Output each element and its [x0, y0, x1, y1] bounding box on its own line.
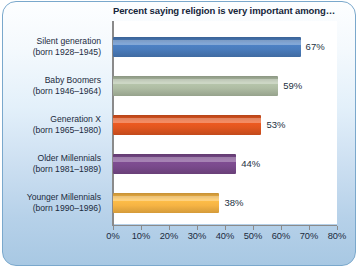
category-sublabel: (born 1928–1945) — [2, 47, 101, 58]
category-name: Younger Millennials — [2, 192, 101, 203]
x-axis-tick — [197, 226, 198, 230]
chart-card: Percent saying religion is very importan… — [2, 1, 356, 266]
category-label-generation-x: Generation X (born 1965–1980) — [2, 114, 101, 136]
value-label-generation-x: 53% — [266, 119, 285, 131]
bar-older-millennials — [113, 154, 236, 174]
category-label-older-millennials: Older Millennials (born 1981–1989) — [2, 153, 101, 175]
chart-title: Percent saying religion is very importan… — [99, 5, 349, 17]
bar-younger-millennials — [113, 193, 219, 213]
x-axis-tick — [225, 226, 226, 230]
category-name: Baby Boomers — [2, 75, 101, 86]
category-sublabel: (born 1981–1989) — [2, 164, 101, 175]
category-label-baby-boomers: Baby Boomers (born 1946–1964) — [2, 75, 101, 97]
category-name: Generation X — [2, 114, 101, 125]
category-label-younger-millennials: Younger Millennials (born 1990–1996) — [2, 192, 101, 214]
value-label-younger-millennials: 38% — [224, 197, 243, 209]
bar-baby-boomers — [113, 76, 278, 96]
bar-silent-generation — [113, 37, 301, 57]
value-label-older-millennials: 44% — [241, 158, 260, 170]
category-label-silent-generation: Silent generation (born 1928–1945) — [2, 36, 101, 58]
value-label-baby-boomers: 59% — [283, 80, 302, 92]
x-axis-tick — [113, 226, 114, 230]
x-axis-tick-label: 80% — [320, 231, 354, 241]
category-name: Silent generation — [2, 36, 101, 47]
x-axis-tick — [141, 226, 142, 230]
category-sublabel: (born 1990–1996) — [2, 203, 101, 214]
x-axis-tick — [253, 226, 254, 230]
category-sublabel: (born 1946–1964) — [2, 86, 101, 97]
category-sublabel: (born 1965–1980) — [2, 125, 101, 136]
bar-generation-x — [113, 115, 261, 135]
x-axis-tick — [337, 226, 338, 230]
x-axis-tick — [309, 226, 310, 230]
value-label-silent-generation: 67% — [306, 41, 325, 53]
category-name: Older Millennials — [2, 153, 101, 164]
x-axis-tick — [281, 226, 282, 230]
x-axis-tick — [169, 226, 170, 230]
